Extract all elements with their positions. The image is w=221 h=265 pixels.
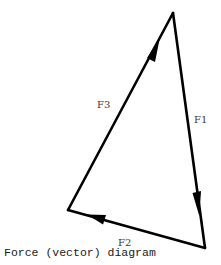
diagram-caption: Force (vector) diagram [4, 246, 156, 259]
label-f1: F1 [194, 114, 207, 125]
arrowhead-left-icon [87, 215, 106, 225]
vector-f3 [68, 13, 173, 210]
vector-f2 [68, 210, 205, 248]
vector-f1 [173, 13, 205, 248]
arrowhead-up-icon [147, 37, 160, 62]
force-vector-diagram: F3 F1 F2 [0, 0, 221, 265]
label-f3: F3 [97, 99, 110, 110]
